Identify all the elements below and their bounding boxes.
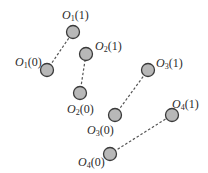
label-o4-0: O4(0) xyxy=(78,156,105,168)
edge-o3 xyxy=(115,70,148,115)
label-arg: (0) xyxy=(28,55,42,69)
label-o4-1: O4(1) xyxy=(172,98,199,110)
label-base: O xyxy=(87,123,96,137)
node-o2-1 xyxy=(80,48,93,61)
label-base: O xyxy=(172,97,181,111)
label-o3-0: O3(0) xyxy=(87,124,114,136)
label-arg: (1) xyxy=(169,56,183,70)
edge-o4 xyxy=(110,115,172,154)
label-o1-1: O1(1) xyxy=(62,9,89,21)
label-arg: (0) xyxy=(80,102,94,116)
label-o2-0: O2(0) xyxy=(67,103,94,115)
label-base: O xyxy=(95,39,104,53)
node-o3-0 xyxy=(109,109,122,122)
node-o2-0 xyxy=(74,87,87,100)
label-arg: (1) xyxy=(108,39,122,53)
label-base: O xyxy=(156,56,165,70)
label-base: O xyxy=(78,155,87,169)
node-o4-0 xyxy=(104,148,117,161)
label-o2-1: O2(1) xyxy=(95,40,122,52)
label-arg: (1) xyxy=(185,97,199,111)
object-trajectory-diagram: O1(1) O1(0) O2(1) O2(0) O3(1) O3(0) O4(1… xyxy=(0,0,208,173)
label-base: O xyxy=(67,102,76,116)
node-o3-1 xyxy=(142,64,155,77)
node-o1-0 xyxy=(41,64,54,77)
label-o3-1: O3(1) xyxy=(156,57,183,69)
label-arg: (0) xyxy=(91,155,105,169)
label-base: O xyxy=(15,55,24,69)
label-o1-0: O1(0) xyxy=(15,56,42,68)
node-o1-1 xyxy=(67,26,80,39)
label-arg: (1) xyxy=(75,8,89,22)
diagram-canvas xyxy=(0,0,208,173)
label-arg: (0) xyxy=(100,123,114,137)
label-base: O xyxy=(62,8,71,22)
